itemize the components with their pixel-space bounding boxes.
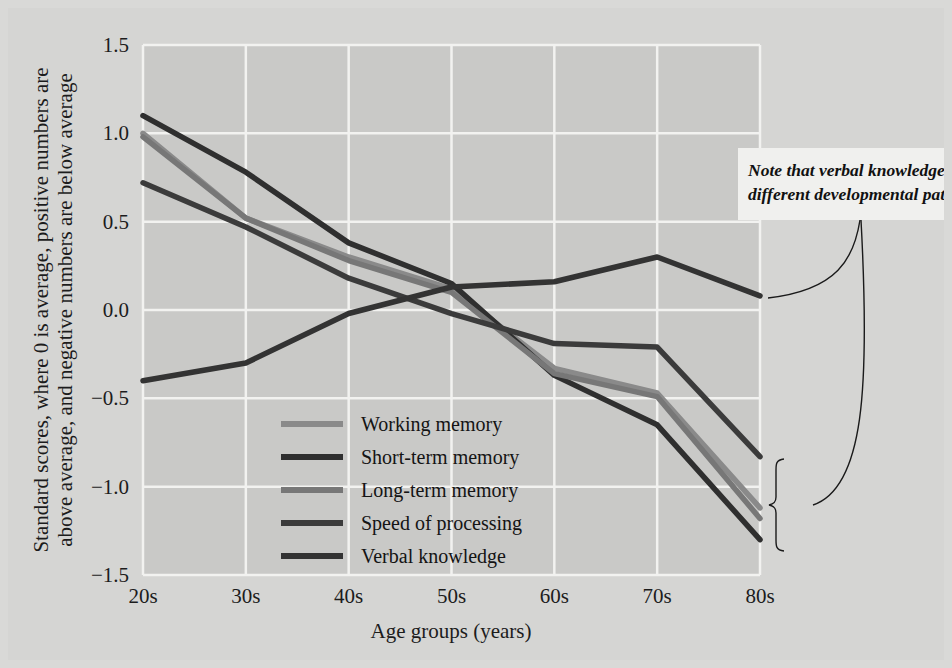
x-axis-tick-label: 50s xyxy=(437,584,466,608)
x-axis-tick-label: 40s xyxy=(334,584,363,608)
x-axis-tick-label: 20s xyxy=(128,584,157,608)
x-axis-title: Age groups (years) xyxy=(371,619,532,643)
x-axis-tick-label: 80s xyxy=(745,584,774,608)
y-axis-tick-label: −0.5 xyxy=(91,386,129,410)
callout-leader-lines xyxy=(768,220,864,505)
y-axis-tick-label: 1.0 xyxy=(103,121,129,145)
y-axis-tick-label: 0.5 xyxy=(103,210,129,234)
line-chart: 1.51.00.50.0−0.5−1.0−1.5 20s30s40s50s60s… xyxy=(8,8,944,660)
annotation-callout: Note that verbal knowledge has a differe… xyxy=(738,148,944,220)
leader-line-to-brace xyxy=(813,220,864,505)
y-axis-title-line-1: Standard scores, where 0 is average, pos… xyxy=(29,67,53,552)
annotation-line-2: different developmental pattern. xyxy=(748,184,944,204)
y-axis-tick-label: 1.5 xyxy=(103,33,129,57)
legend-label: Short-term memory xyxy=(361,446,519,469)
x-axis-tick-labels: 20s30s40s50s60s70s80s xyxy=(128,584,774,608)
x-axis-tick-label: 60s xyxy=(540,584,569,608)
legend-label: Speed of processing xyxy=(361,512,522,535)
legend-label: Verbal knowledge xyxy=(361,545,506,568)
legend-label: Working memory xyxy=(361,413,502,436)
y-axis-title-line-2: above average, and negative numbers are … xyxy=(53,73,77,546)
y-axis-tick-label: −1.0 xyxy=(91,475,129,499)
y-axis-tick-label: 0.0 xyxy=(103,298,129,322)
y-axis-tick-labels: 1.51.00.50.0−0.5−1.0−1.5 xyxy=(91,33,129,587)
legend-label: Long-term memory xyxy=(361,479,518,502)
x-axis-tick-label: 70s xyxy=(643,584,672,608)
curly-brace xyxy=(769,459,784,551)
y-axis-tick-label: −1.5 xyxy=(91,563,129,587)
x-axis-tick-label: 30s xyxy=(231,584,260,608)
annotation-line-1: Note that verbal knowledge has a xyxy=(747,160,944,180)
chart-figure: 1.51.00.50.0−0.5−1.0−1.5 20s30s40s50s60s… xyxy=(8,8,944,660)
leader-line-to-verbal xyxy=(768,220,860,298)
